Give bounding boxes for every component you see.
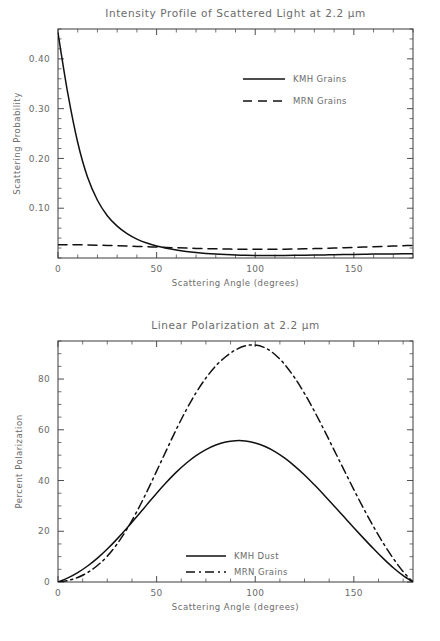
plot-frame xyxy=(58,29,413,258)
x-tick-label: 50 xyxy=(151,588,163,598)
x-axis-ticks xyxy=(58,29,413,258)
legend-label-1: KMH Grains xyxy=(293,74,347,84)
legend-label-1: KMH Dust xyxy=(234,551,279,561)
intensity-profile-chart: Intensity Profile of Scattered Light at … xyxy=(0,0,440,310)
y-tick-label: 0.40 xyxy=(29,54,50,64)
data-series-1 xyxy=(58,33,413,256)
y-tick-label: 60 xyxy=(38,425,50,435)
x-axis-label: Scattering Angle (degrees) xyxy=(172,602,299,612)
data-curves xyxy=(58,345,413,582)
chart-legend: KMH DustMRN Grains xyxy=(186,551,288,577)
y-tick-label: 0.30 xyxy=(29,104,50,114)
chart-panel-intensity-profile: Intensity Profile of Scattered Light at … xyxy=(0,0,440,310)
x-tick-label: 150 xyxy=(345,588,363,598)
y-tick-label: 0.20 xyxy=(29,154,50,164)
legend-label-2: MRN Grains xyxy=(293,96,347,106)
y-tick-label: 0 xyxy=(44,577,50,587)
chart-title: Intensity Profile of Scattered Light at … xyxy=(105,7,366,19)
x-tick-label: 0 xyxy=(55,264,61,274)
x-tick-label: 0 xyxy=(55,588,61,598)
y-tick-labels: 020406080 xyxy=(38,374,50,587)
x-tick-labels: 050100150 xyxy=(55,264,363,274)
data-curves xyxy=(58,33,413,256)
y-tick-labels: 0.100.200.300.40 xyxy=(29,54,50,213)
y-axis-label: Scattering Probability xyxy=(12,92,22,194)
chart-legend: KMH GrainsMRN Grains xyxy=(243,74,347,106)
y-tick-label: 20 xyxy=(38,526,50,536)
linear-polarization-chart: Linear Polarization at 2.2 μm050100150Sc… xyxy=(0,310,440,641)
legend-label-2: MRN Grains xyxy=(234,567,288,577)
x-tick-labels: 050100150 xyxy=(55,588,363,598)
y-axis-ticks xyxy=(58,29,413,258)
y-tick-label: 0.10 xyxy=(29,203,50,213)
y-axis-label: Percent Polarization xyxy=(14,414,24,508)
data-series-2 xyxy=(58,345,413,582)
x-tick-label: 50 xyxy=(151,264,163,274)
x-tick-label: 100 xyxy=(246,264,264,274)
chart-panel-linear-polarization: Linear Polarization at 2.2 μm050100150Sc… xyxy=(0,310,440,641)
y-tick-label: 80 xyxy=(38,374,50,384)
chart-title: Linear Polarization at 2.2 μm xyxy=(151,319,320,331)
data-series-2 xyxy=(58,245,413,250)
x-tick-label: 150 xyxy=(345,264,363,274)
scientific-figure: Intensity Profile of Scattered Light at … xyxy=(0,0,440,641)
x-axis-label: Scattering Angle (degrees) xyxy=(172,278,299,288)
y-tick-label: 40 xyxy=(38,476,50,486)
x-tick-label: 100 xyxy=(246,588,264,598)
